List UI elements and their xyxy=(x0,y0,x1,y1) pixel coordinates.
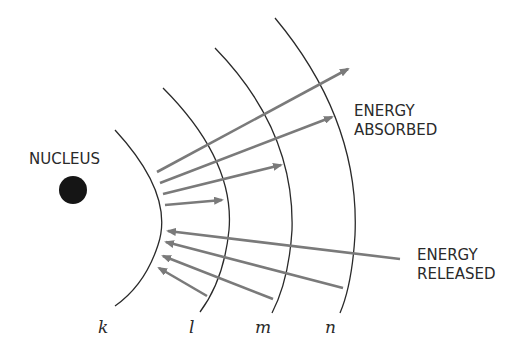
energy-absorbed-label-line2: ABSORBED xyxy=(354,121,437,140)
energy-absorbed-label-line1: ENERGY xyxy=(354,102,415,121)
nucleus-label: NUCLEUS xyxy=(29,150,100,169)
energy-absorbed-arrows xyxy=(157,69,348,205)
shell-label-l: l xyxy=(189,317,194,337)
shell-label-m: m xyxy=(255,317,271,337)
shell-m-arc xyxy=(215,48,292,313)
energy-released-arrows xyxy=(159,231,400,299)
nucleus-dot xyxy=(59,176,87,204)
shell-label-k: k xyxy=(98,317,108,337)
shell-k-arc xyxy=(115,130,162,306)
shell-label-n: n xyxy=(325,317,336,337)
energy-released-label-line1: ENERGY xyxy=(417,246,478,265)
energy-released-label-line2: RELEASED xyxy=(417,265,496,284)
energy-level-diagram xyxy=(0,0,528,352)
